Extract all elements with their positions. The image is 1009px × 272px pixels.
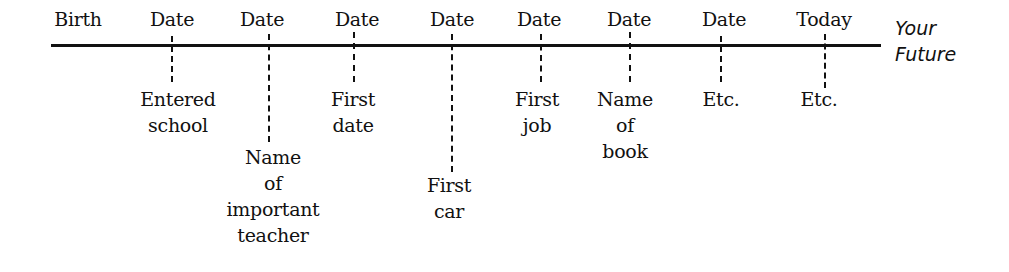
event-date-label: Date: [430, 8, 474, 30]
event-connector: [824, 34, 826, 88]
event-date-label: Date: [702, 8, 746, 30]
event-date-label: Date: [607, 8, 651, 30]
event-description: First date: [331, 86, 375, 138]
event-connector: [353, 32, 355, 82]
event-description: Name of important teacher: [227, 144, 320, 248]
event-description: Name of book: [597, 86, 653, 164]
event-connector: [451, 34, 453, 172]
event-description: First car: [427, 172, 471, 224]
event-connector: [540, 34, 542, 82]
event-description: Etc.: [703, 86, 740, 112]
event-date-label: Date: [517, 8, 561, 30]
event-description: Entered school: [140, 86, 215, 138]
event-connector: [720, 36, 722, 82]
today-label: Today: [796, 8, 851, 30]
event-connector: [171, 36, 173, 82]
event-connector: [268, 34, 270, 142]
event-connector: [629, 32, 631, 82]
start-label: Birth: [54, 8, 102, 30]
event-description: First job: [515, 86, 559, 138]
event-date-label: Date: [335, 8, 379, 30]
event-date-label: Date: [240, 8, 284, 30]
timeline-axis: [51, 44, 881, 47]
event-date-label: Date: [150, 8, 194, 30]
event-description: Etc.: [801, 86, 838, 112]
future-label: Your Future: [895, 15, 956, 67]
